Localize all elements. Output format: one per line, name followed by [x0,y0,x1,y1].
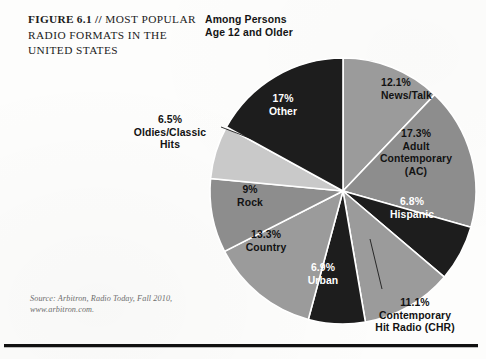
slice-label-news-talk: 12.1% News/Talk [381,77,432,102]
slice-label-chr: 11.1% Contemporary Hit Radio (CHR) [352,297,478,335]
slice-label-rock: 9% Rock [222,184,278,209]
slice-label-hispanic: 6.8% Hispanic [374,196,450,221]
slice-label-adult-contemporary: 17.3% Adult Contemporary (AC) [363,128,469,178]
source-note: Source: Arbitron, Radio Today, Fall 2010… [30,293,245,316]
slice-label-other: 17% Other [252,93,314,118]
slice-label-urban: 6.9% Urban [297,262,349,287]
figure-container: FIGURE 6.1 // MOST POPULAR RADIO FORMATS… [0,0,486,359]
slice-label-oldies: 6.5% Oldies/Classic Hits [118,114,222,152]
slice-label-country: 13.3% Country [225,229,307,254]
bottom-divider [4,344,478,347]
